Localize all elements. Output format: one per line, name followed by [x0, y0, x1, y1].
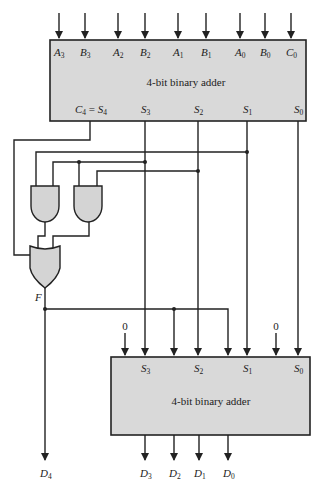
interconnect-wires: [14, 121, 298, 355]
bottom-adder: S3 S2 S1 S0 4-bit binary adder: [111, 357, 310, 435]
bcd-adder-diagram: A3 B3 A2 B2 A1 B1 A0 B0 C0 4-bit binary …: [0, 0, 324, 494]
label-d0: D0: [222, 467, 235, 481]
label-c4-s4: C4 = S4: [75, 103, 107, 117]
top-adder-title: 4-bit binary adder: [147, 76, 226, 88]
top-input-arrows: [59, 13, 291, 38]
and-gate-1: [31, 186, 59, 222]
top-adder: A3 B3 A2 B2 A1 B1 A0 B0 C0 4-bit binary …: [50, 13, 306, 121]
label-d4: D4: [39, 467, 52, 481]
const-zero-left: 0: [122, 320, 128, 332]
label-d2: D2: [168, 467, 181, 481]
label-f: F: [34, 291, 42, 303]
label-d1: D1: [193, 467, 206, 481]
bottom-output-arrows: [145, 435, 228, 460]
const-zero-right: 0: [273, 320, 279, 332]
or-gate: [30, 246, 60, 288]
bottom-adder-title: 4-bit binary adder: [172, 395, 251, 407]
and-gate-2: [74, 186, 102, 222]
label-d3: D3: [139, 467, 152, 481]
